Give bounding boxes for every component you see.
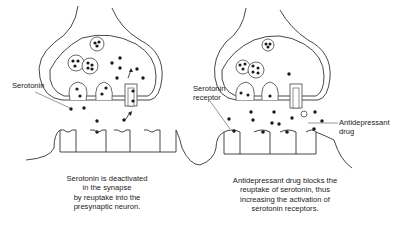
caption-right-line: Antidepressant drug blocks the: [218, 176, 352, 185]
label-serotonin: Serotonin: [12, 81, 45, 90]
label-drug-line: Antidepressant: [339, 118, 390, 127]
caption-left-line: by reuptake into the: [52, 193, 162, 202]
caption-right: Antidepressant drug blocks the reuptake …: [218, 176, 352, 214]
label-antidepressant-drug: Antidepressant drug: [339, 118, 390, 136]
caption-right-line: reuptake of serotonin, thus: [218, 185, 352, 194]
label-serotonin-receptor: Serotonin receptor: [193, 84, 226, 102]
caption-right-line: serotonin receptors.: [218, 204, 352, 213]
label-receptor-line: receptor: [193, 93, 226, 102]
caption-left-line: in the synapse: [52, 183, 162, 192]
label-receptor-line: Serotonin: [193, 84, 226, 93]
label-drug-line: drug: [339, 127, 390, 136]
caption-left: Serotonin is deactivated in the synapse …: [52, 174, 162, 212]
left-synapse: [26, 6, 200, 165]
caption-left-line: presynaptic neuron.: [52, 202, 162, 211]
caption-right-line: increasing the activation of: [218, 195, 352, 204]
caption-left-line: Serotonin is deactivated: [52, 174, 162, 183]
